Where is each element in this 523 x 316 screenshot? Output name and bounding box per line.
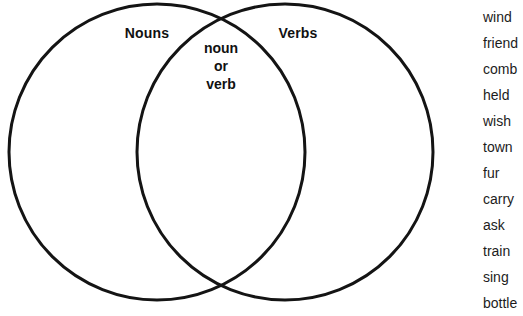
worksheet-canvas: Nouns Verbs noun or verb wind friend com… [0, 0, 523, 316]
intersection-label-line-1: noun [204, 39, 238, 57]
nouns-circle[interactable] [9, 4, 305, 300]
word-bank-list: wind friend comb held wish town fur carr… [483, 0, 523, 316]
clipped-footer-text [3, 308, 253, 316]
word-bank-item[interactable]: train [483, 244, 510, 258]
verbs-circle[interactable] [137, 4, 433, 300]
word-bank-item[interactable]: sing [483, 270, 509, 284]
word-bank-item[interactable]: town [483, 140, 513, 154]
verbs-circle-label: Verbs [278, 25, 317, 41]
word-bank-item[interactable]: fur [483, 166, 499, 180]
word-bank-item[interactable]: wish [483, 114, 511, 128]
word-bank-item[interactable]: wind [483, 10, 512, 24]
nouns-circle-label: Nouns [125, 25, 170, 41]
word-bank-item[interactable]: carry [483, 192, 514, 206]
word-bank-item[interactable]: bottle [483, 296, 517, 310]
intersection-label-line-3: verb [204, 75, 238, 93]
intersection-label: noun or verb [204, 39, 238, 93]
word-bank-item[interactable]: held [483, 88, 509, 102]
word-bank-item[interactable]: friend [483, 36, 518, 50]
intersection-label-line-2: or [204, 57, 238, 75]
word-bank-item[interactable]: ask [483, 218, 505, 232]
word-bank-item[interactable]: comb [483, 62, 517, 76]
venn-diagram: Nouns Verbs noun or verb [0, 0, 450, 316]
